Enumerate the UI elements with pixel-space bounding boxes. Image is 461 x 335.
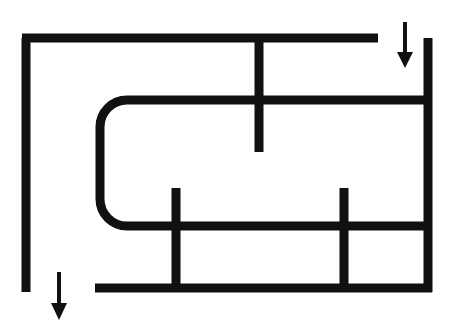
- figure-canvas: [0, 0, 461, 335]
- line-diagram: [0, 0, 461, 335]
